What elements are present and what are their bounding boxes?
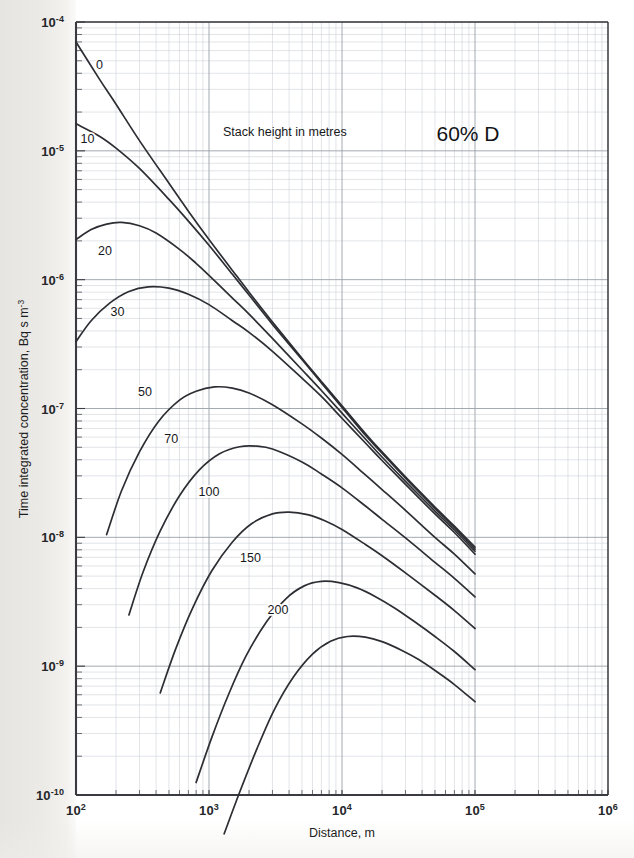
curve-label-50: 50 — [138, 385, 152, 399]
y-tick-label-10-9: 10-9 — [41, 658, 64, 674]
x-axis-title: Distance, m — [309, 826, 375, 840]
y-tick-label-10-10: 10-10 — [36, 787, 64, 803]
y-axis-title-superscript: -3 — [16, 300, 26, 308]
x-tick-label-102: 102 — [66, 802, 86, 818]
curve-stack-height-20 — [76, 222, 475, 551]
y-tick-label-10-7: 10-7 — [41, 401, 64, 417]
curve-label-200: 200 — [268, 603, 289, 617]
curve-label-100: 100 — [199, 485, 220, 499]
curve-label-0: 0 — [96, 58, 103, 72]
curve-stack-height-0 — [76, 42, 475, 547]
y-axis-title: Time integrated concentration, Bq s m-3 — [16, 300, 31, 519]
curve-stack-height-10 — [76, 124, 475, 549]
curve-labels: 01020305070100150200 — [81, 58, 289, 617]
chart-page: 01020305070100150200 10210310410510610-4… — [0, 0, 634, 858]
curve-label-150: 150 — [240, 551, 261, 565]
data-curves — [76, 42, 475, 834]
plot-title: 60% D — [436, 122, 499, 145]
curve-label-70: 70 — [164, 432, 178, 446]
loglog-chart: 01020305070100150200 10210310410510610-4… — [0, 0, 634, 858]
curve-stack-height-50 — [107, 387, 475, 574]
svg-text:Time integrated concentration,: Time integrated concentration, Bq s m-3 — [16, 300, 31, 519]
curve-label-30: 30 — [111, 305, 125, 319]
x-tick-label-103: 103 — [199, 802, 219, 818]
x-tick-label-106: 106 — [598, 802, 618, 818]
y-axis-title-base: Time integrated concentration, Bq s m — [17, 307, 31, 518]
y-tick-label-10-6: 10-6 — [41, 272, 64, 288]
y-tick-label-10-4: 10-4 — [41, 14, 64, 30]
curve-label-10: 10 — [81, 132, 95, 146]
x-tick-label-105: 105 — [465, 802, 485, 818]
y-tick-label-10-8: 10-8 — [41, 529, 64, 545]
curve-stack-height-150 — [196, 581, 475, 782]
y-tick-label-10-5: 10-5 — [41, 143, 64, 159]
stack-height-annotation: Stack height in metres — [223, 125, 347, 139]
x-tick-label-104: 104 — [332, 802, 352, 818]
curve-label-20: 20 — [98, 244, 112, 258]
